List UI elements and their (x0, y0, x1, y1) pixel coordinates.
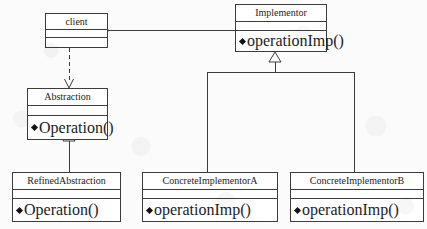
edge-concreteimplementors-implementor (207, 52, 355, 172)
class-name-concrete-implementor-a: ConcreteImplementorA (143, 173, 277, 190)
method-label: operationImp() (154, 202, 251, 218)
class-attributes-refined-abstraction (13, 190, 120, 199)
edge-client-abstraction (65, 48, 74, 88)
diamond-bullet-icon (294, 206, 301, 213)
uml-class-diagram: client Implementor operationImp() Abstra… (0, 0, 427, 229)
class-name-client: client (46, 14, 107, 30)
diamond-bullet-icon (239, 37, 246, 44)
hollow-triangle-decorator (269, 52, 281, 62)
class-methods-abstraction: Operation() (28, 116, 107, 139)
class-name-abstraction: Abstraction (28, 89, 107, 106)
method-label: Operation() (39, 120, 114, 136)
class-methods-refined-abstraction: Operation() (13, 199, 120, 221)
class-methods-concrete-implementor-a: operationImp() (143, 199, 277, 221)
method-label: operationImp() (247, 33, 344, 49)
class-methods-client (46, 38, 107, 47)
method-operation: Operation() (32, 120, 114, 136)
method-operation: Operation() (17, 202, 99, 218)
method-operation-imp: operationImp() (147, 202, 251, 218)
diamond-bullet-icon (31, 124, 38, 131)
class-attributes-client (46, 30, 107, 38)
class-box-concrete-implementor-b[interactable]: ConcreteImplementorB operationImp() (290, 172, 424, 222)
class-methods-implementor: operationImp() (236, 31, 326, 51)
class-box-concrete-implementor-a[interactable]: ConcreteImplementorA operationImp() (142, 172, 278, 222)
method-label: Operation() (24, 202, 99, 218)
diamond-bullet-icon (16, 206, 23, 213)
class-box-client[interactable]: client (45, 13, 108, 48)
class-attributes-abstraction (28, 106, 107, 116)
class-attributes-implementor (236, 22, 326, 31)
class-name-concrete-implementor-b: ConcreteImplementorB (291, 173, 423, 190)
class-attributes-concrete-implementor-a (143, 190, 277, 199)
diamond-bullet-icon (146, 206, 153, 213)
class-name-refined-abstraction: RefinedAbstraction (13, 173, 120, 190)
class-attributes-concrete-implementor-b (291, 190, 423, 199)
class-box-implementor[interactable]: Implementor operationImp() (235, 4, 327, 52)
open-arrow-decorator (65, 79, 74, 88)
class-methods-concrete-implementor-b: operationImp() (291, 199, 423, 221)
class-name-implementor: Implementor (236, 5, 326, 22)
class-box-abstraction[interactable]: Abstraction Operation() (27, 88, 108, 140)
method-operation-imp: operationImp() (240, 33, 344, 49)
class-box-refined-abstraction[interactable]: RefinedAbstraction Operation() (12, 172, 121, 222)
edge-client-implementor (100, 28, 235, 34)
method-label: operationImp() (302, 202, 399, 218)
method-operation-imp: operationImp() (295, 202, 399, 218)
